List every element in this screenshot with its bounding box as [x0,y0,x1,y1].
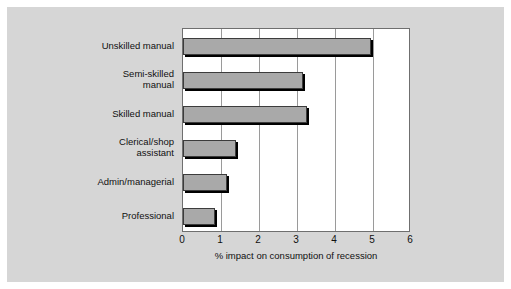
x-axis-title: % impact on consumption of recession [182,250,410,261]
x-tick-label: 2 [248,234,268,245]
bar-row [183,63,411,97]
category-label: Clerical/shop assistant [8,136,174,158]
x-tick-label: 3 [286,234,306,245]
y-axis-category-labels: Unskilled manualSemi-skilled manualSkill… [8,28,178,232]
x-tick-label: 5 [362,234,382,245]
bar-row [183,97,411,131]
bar-row [183,199,411,233]
category-label: Professional [8,210,174,221]
bar [183,174,227,191]
x-tick-label: 0 [172,234,192,245]
bar-row [183,29,411,63]
bar [183,140,236,157]
x-tick-label: 6 [400,234,420,245]
plot-area [182,28,410,232]
bar [183,72,303,89]
x-axis-tick-labels: 0123456 [182,234,410,248]
bar [183,106,307,123]
category-label: Admin/managerial [8,176,174,187]
bar [183,208,215,225]
figure: Unskilled manualSemi-skilled manualSkill… [0,0,511,289]
x-tick-label: 4 [324,234,344,245]
x-tick-label: 1 [210,234,230,245]
bar-row [183,131,411,165]
category-label: Unskilled manual [8,40,174,51]
bar [183,38,371,55]
bar-row [183,165,411,199]
category-label: Semi-skilled manual [8,68,174,90]
category-label: Skilled manual [8,108,174,119]
